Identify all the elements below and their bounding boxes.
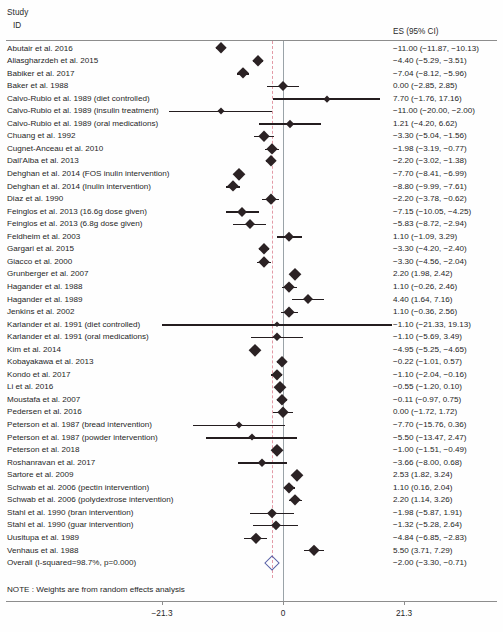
forest-row: Roshanravan et al. 2017−3.66 (−8.00, 0.6… xyxy=(0,456,503,469)
study-label: Baker et al. 1988 xyxy=(7,80,68,91)
forest-row: Chuang et al. 1992−3.30 (−5.04, −1.56) xyxy=(0,130,503,143)
effect-size-marker xyxy=(274,381,286,393)
forest-row: Peterson et al. 1987 (powder interventio… xyxy=(0,431,503,444)
study-label: Stahl et al. 1990 (guar intervention) xyxy=(7,519,133,530)
effect-size-value: −3.66 (−8.00, 0.68) xyxy=(393,457,462,468)
column-header-id: ID xyxy=(13,21,21,30)
axis-tick-label: 0 xyxy=(281,608,286,618)
effect-size-marker xyxy=(272,333,281,342)
study-label: Aliasgharzdeh et al. 2015 xyxy=(7,55,98,66)
study-label: Calvo-Rubio et al. 1989 (diet controlled… xyxy=(7,93,150,104)
study-label: Hagander et al. 1989 xyxy=(7,294,83,305)
study-label: Overall (I-squared=98.7%, p=0.000) xyxy=(7,557,136,568)
forest-row: Venhaus et al. 19885.50 (3.71, 7.29) xyxy=(0,544,503,557)
study-label: Uusitupa et al. 1989 xyxy=(7,532,79,543)
effect-size-marker xyxy=(245,219,255,229)
header-divider xyxy=(6,40,497,41)
forest-row: Cugnet-Anceau et al. 2010−1.98 (−3.19, −… xyxy=(0,142,503,155)
effect-size-marker xyxy=(271,444,283,456)
effect-size-marker xyxy=(249,344,261,356)
effect-size-marker xyxy=(267,508,276,517)
effect-size-value: −4.40 (−5.29, −3.51) xyxy=(393,55,467,66)
effect-size-value: −11.00 (−20.00, −2.00) xyxy=(393,105,475,116)
effect-size-marker xyxy=(284,231,294,241)
forest-row: Schwab et al. 2006 (polydextrose interve… xyxy=(0,494,503,507)
effect-size-marker xyxy=(286,120,294,128)
effect-size-marker xyxy=(271,369,283,381)
forest-row: Gargari et al. 2015−3.30 (−4.20, −2.40) xyxy=(0,243,503,256)
forest-row: Aliasgharzdeh et al. 2015−4.40 (−5.29, −… xyxy=(0,55,503,68)
effect-size-marker xyxy=(309,545,320,556)
forest-row: Giacco et al. 2000−3.30 (−4.56, −2.04) xyxy=(0,255,503,268)
forest-row: Stahl et al. 1990 (guar intervention)−1.… xyxy=(0,519,503,532)
forest-row: Uusitupa et al. 1989−4.84 (−6.85, −2.83) xyxy=(0,531,503,544)
effect-size-marker xyxy=(258,243,270,255)
effect-size-marker xyxy=(252,55,264,67)
forest-row: Dehghan et al. 2014 (Inulin intervention… xyxy=(0,180,503,193)
effect-size-marker xyxy=(291,469,303,481)
effect-size-marker xyxy=(215,42,227,54)
effect-size-value: −3.30 (−5.04, −1.56) xyxy=(393,130,467,141)
effect-size-value: 5.50 (3.71, 7.29) xyxy=(393,545,452,556)
effect-size-marker xyxy=(276,356,288,368)
effect-size-value: 1.10 (0.16, 2.04) xyxy=(393,482,452,493)
effect-size-value: −0.11 (−0.97, 0.75) xyxy=(393,394,461,405)
forest-row: Sartore et al. 20092.53 (1.82, 3.24) xyxy=(0,469,503,482)
effect-size-value: −1.10 (−21.33, 19.13) xyxy=(393,319,471,330)
effect-size-value: −3.30 (−4.20, −2.40) xyxy=(393,243,467,254)
effect-size-value: −4.84 (−6.85, −2.83) xyxy=(393,532,467,543)
study-label: Karlander et al. 1991 (oral medications) xyxy=(7,331,149,342)
study-label: Sartore et al. 2009 xyxy=(7,469,74,480)
forest-row: Diaz et al. 1990−2.20 (−3.78, −0.62) xyxy=(0,193,503,206)
effect-size-value: 1.10 (−0.36, 2.56) xyxy=(393,306,457,317)
effect-size-value: 7.70 (−1.76, 17.16) xyxy=(393,93,462,104)
axis-tick xyxy=(162,601,163,605)
study-label: Peterson et al. 1987 (powder interventio… xyxy=(7,432,158,443)
effect-size-marker xyxy=(303,294,313,304)
forest-row: Pedersen et al. 20160.00 (−1.72, 1.72) xyxy=(0,406,503,419)
study-label: Kim et al. 2014 xyxy=(7,344,61,355)
study-label: Moustafa et al. 2007 xyxy=(7,394,80,405)
forest-row: Feinglos et al. 2013 (16.6g dose given)−… xyxy=(0,205,503,218)
column-header-study: Study xyxy=(7,8,28,17)
effect-size-value: −1.10 (−5.69, 3.49) xyxy=(393,331,462,342)
forest-row: Abutair et al. 2016−11.00 (−11.87, −10.1… xyxy=(0,42,503,55)
effect-size-value: −2.00 (−3.30, −0.71) xyxy=(393,557,467,568)
study-label: Peterson et al. 2018 xyxy=(7,444,79,455)
effect-size-value: −7.04 (−8.12, −5.96) xyxy=(393,68,467,79)
study-label: Calvo-Rubio et al. 1989 (oral medication… xyxy=(7,118,158,129)
study-label: Peterson et al. 1987 (bread intervention… xyxy=(7,419,152,430)
forest-row: Feinglos et al. 2013 (6.8g dose given)−5… xyxy=(0,218,503,231)
effect-size-marker xyxy=(274,322,279,327)
study-label: Roshanravan et al. 2017 xyxy=(7,457,95,468)
forest-row: Karlander et al. 1991 (diet controlled)−… xyxy=(0,318,503,331)
forest-row: Moustafa et al. 2007−0.11 (−0.97, 0.75) xyxy=(0,393,503,406)
effect-size-value: −2.20 (−3.02, −1.38) xyxy=(393,155,467,166)
forest-row: Hagander et al. 19894.40 (1.64, 7.16) xyxy=(0,293,503,306)
effect-size-marker xyxy=(323,95,330,102)
effect-size-marker xyxy=(259,131,270,142)
forest-row: Li et al. 2016−0.55 (−1.20, 0.10) xyxy=(0,381,503,394)
effect-size-marker xyxy=(266,143,277,154)
study-label: Kobayakawa et al. 2013 xyxy=(7,356,93,367)
forest-row: Peterson et al. 2018−1.00 (−1.51, −0.49) xyxy=(0,444,503,457)
effect-size-marker xyxy=(250,533,261,544)
axis-line xyxy=(6,601,497,602)
axis-tick xyxy=(283,601,284,605)
study-label: Schwab et al. 2006 (polydextrose interve… xyxy=(7,494,173,505)
effect-size-marker xyxy=(265,193,276,204)
study-label: Karlander et al. 1991 (diet controlled) xyxy=(7,319,140,330)
study-label: Feinglos et al. 2013 (6.8g dose given) xyxy=(7,218,142,229)
study-label: Venhaus et al. 1988 xyxy=(7,545,79,556)
effect-size-marker xyxy=(217,108,224,115)
forest-row: Feldheim et al. 20031.10 (−1.09, 3.29) xyxy=(0,230,503,243)
study-label: Cugnet-Anceau et al. 2010 xyxy=(7,143,103,154)
effect-size-marker xyxy=(259,256,270,267)
effect-size-value: 2.53 (1.82, 3.24) xyxy=(393,469,452,480)
study-label: Feinglos et al. 2013 (16.6g dose given) xyxy=(7,206,147,217)
effect-size-marker xyxy=(276,394,288,406)
effect-size-marker xyxy=(237,207,247,217)
study-label: Diaz et al. 1990 xyxy=(7,193,63,204)
effect-size-value: 2.20 (1.98, 2.42) xyxy=(393,268,452,279)
forest-row: Babiker et al. 2017−7.04 (−8.12, −5.96) xyxy=(0,67,503,80)
